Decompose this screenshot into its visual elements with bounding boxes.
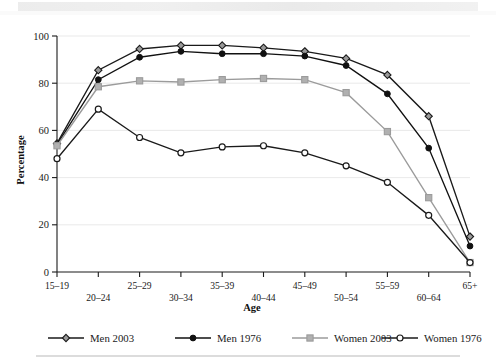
legend-item-men-1976[interactable]: Men 1976 <box>175 332 262 344</box>
data-point-marker <box>385 91 391 97</box>
y-axis-tick-labels: 020406080100 <box>33 31 49 278</box>
series-line <box>57 78 470 262</box>
data-point-marker <box>95 67 102 74</box>
series-men-2003 <box>53 42 473 240</box>
data-point-marker <box>260 75 266 81</box>
y-tick-label: 80 <box>39 78 50 89</box>
x-tick-label: 20–24 <box>86 292 110 303</box>
data-point-marker <box>343 163 349 169</box>
chart-container: 020406080100 15–1920–2425–2930–3435–3940… <box>0 0 496 363</box>
y-axis-title: Percentage <box>15 135 26 185</box>
gridlines <box>57 36 470 225</box>
data-point-marker <box>426 212 432 218</box>
data-point-marker <box>137 54 143 60</box>
line-chart: 020406080100 15–1920–2425–2930–3435–3940… <box>0 0 496 363</box>
data-point-marker <box>307 335 313 341</box>
data-point-marker <box>178 48 184 54</box>
data-point-marker <box>190 335 196 341</box>
data-point-marker <box>426 145 432 151</box>
x-tick-label: 25–29 <box>128 280 152 291</box>
data-point-marker <box>95 77 101 83</box>
data-point-marker <box>95 106 101 112</box>
data-point-marker <box>219 144 225 150</box>
data-point-marker <box>343 55 350 62</box>
legend-item-women-1976[interactable]: Women 1976 <box>382 332 482 344</box>
data-point-marker <box>384 179 390 185</box>
x-tick-label: 15–19 <box>45 280 69 291</box>
data-point-marker <box>219 77 225 83</box>
data-point-marker <box>343 63 349 69</box>
data-point-marker <box>54 156 60 162</box>
data-point-marker <box>178 79 184 85</box>
y-axis-ticks <box>52 36 57 272</box>
data-point-marker <box>467 243 473 249</box>
legend-label: Men 1976 <box>217 332 262 344</box>
legend-label: Men 2003 <box>90 332 134 344</box>
data-point-marker <box>136 45 143 52</box>
data-point-marker <box>467 260 473 266</box>
x-tick-label: 60–64 <box>417 292 441 303</box>
y-tick-label: 20 <box>39 219 50 230</box>
data-point-marker <box>343 90 349 96</box>
data-point-marker <box>261 51 267 57</box>
data-point-marker <box>54 143 60 149</box>
data-point-marker <box>302 77 308 83</box>
x-tick-label: 35–39 <box>210 280 234 291</box>
y-tick-label: 40 <box>39 172 50 183</box>
series-line <box>57 45 470 236</box>
data-point-marker <box>397 335 403 341</box>
legend-label: Women 1976 <box>424 332 482 344</box>
data-point-marker <box>62 334 69 341</box>
y-tick-label: 100 <box>33 31 49 42</box>
x-tick-label: 45–49 <box>293 280 317 291</box>
data-point-marker <box>384 128 390 134</box>
chart-legend: Men 2003Men 1976Women 2003Women 1976 <box>48 332 482 344</box>
data-point-marker <box>178 150 184 156</box>
data-point-marker <box>302 53 308 59</box>
data-point-marker <box>137 78 143 84</box>
x-tick-label: 65+ <box>462 280 477 291</box>
data-point-marker <box>137 134 143 140</box>
x-tick-label: 55–59 <box>375 280 399 291</box>
x-tick-label: 50–54 <box>334 292 358 303</box>
y-tick-label: 60 <box>39 125 50 136</box>
x-axis-ticks <box>57 272 470 277</box>
data-point-marker <box>426 195 432 201</box>
data-point-marker <box>219 42 226 49</box>
x-tick-label: 30–34 <box>169 292 193 303</box>
x-axis-title: Age <box>243 302 261 313</box>
series-line <box>57 109 470 262</box>
data-point-marker <box>302 150 308 156</box>
data-point-marker <box>261 143 267 149</box>
legend-item-men-2003[interactable]: Men 2003 <box>48 332 134 344</box>
y-tick-label: 0 <box>44 267 49 278</box>
legend-item-women-2003[interactable]: Women 2003 <box>292 332 392 344</box>
series-women-2003 <box>54 75 473 265</box>
data-point-marker <box>95 84 101 90</box>
data-point-marker <box>219 51 225 57</box>
x-axis-tick-labels: 15–1920–2425–2930–3435–3940–4445–4950–54… <box>45 280 478 303</box>
data-series-layer <box>53 42 473 266</box>
